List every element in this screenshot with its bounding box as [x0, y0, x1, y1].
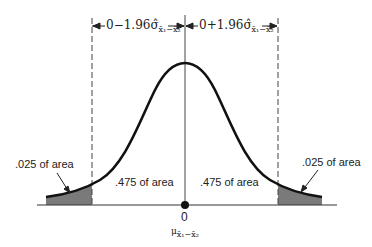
mean-point	[181, 201, 189, 209]
right-center-label: .475 of area	[200, 176, 259, 188]
right-interval-label: 0+1.96σ̂x̄₁−x̄₂	[199, 18, 274, 34]
left-tail-label: .025 of area	[15, 158, 74, 170]
center-value: 0	[181, 210, 188, 224]
right-tail-label: .025 of area	[302, 156, 361, 168]
left-interval-label: 0−1.96σ̂x̄₁−x̄₂	[106, 18, 181, 34]
bell-curve	[46, 63, 322, 197]
left-center-label: .475 of area	[115, 176, 174, 188]
center-mu-label: μx̄₁−x̄₂	[171, 226, 199, 239]
